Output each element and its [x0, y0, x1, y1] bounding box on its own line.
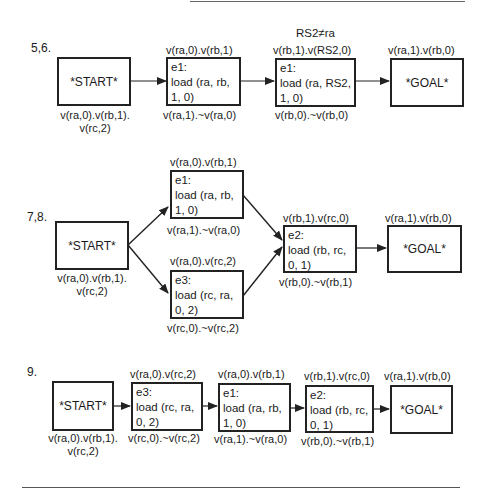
step-postcondition: v(rb,0).~v(rb,0)	[275, 109, 348, 122]
goal-node: *GOAL*	[390, 385, 453, 434]
diagram-label: 9.	[27, 366, 37, 379]
step-precondition: v(ra,0).v(rc,2)	[170, 255, 236, 268]
start-postcondition: v(ra,0).v(rb,1). v(rc,2)	[50, 109, 140, 135]
start-node: *START*	[57, 57, 131, 106]
start-node: *START*	[52, 381, 114, 431]
start-label: *START*	[59, 399, 107, 413]
step-postcondition: v(ra,1).~v(ra,0)	[163, 109, 236, 122]
start-postcondition: v(ra,0).v(rb,1). v(rc,2)	[38, 432, 128, 458]
step-node-e2: e2: load (rb, rc, 0, 1)	[305, 385, 374, 433]
goal-node: *GOAL*	[390, 58, 464, 107]
goal-precondition: v(ra,1).v(rb,0)	[384, 370, 451, 383]
step-precondition: v(ra,0).v(rc,2)	[130, 368, 196, 381]
step-node-e2: e2: load (rb, rc, 0, 1)	[283, 225, 357, 273]
step-postcondition: v(ra,1).~v(ra,0)	[214, 433, 287, 446]
diagram-label: 5,6.	[31, 42, 51, 55]
goal-precondition: v(ra,1).v(rb,0)	[385, 212, 452, 225]
goal-precondition: v(ra,1).v(rb,0)	[388, 44, 455, 57]
step-postcondition: v(ra,1).~v(ra,0)	[167, 224, 240, 237]
step-postcondition: v(rc,0).~v(rc,2)	[167, 322, 239, 335]
step-precondition: v(rb,1).v(rc,0)	[283, 212, 349, 225]
step-precondition: v(rb,1).v(rc,0)	[304, 370, 370, 383]
goal-label: *GOAL*	[403, 242, 446, 256]
step-node-e3: e3: load (rc, ra, 0, 2)	[131, 382, 203, 431]
start-label: *START*	[70, 75, 118, 89]
goal-node: *GOAL*	[387, 225, 462, 273]
step-precondition: v(ra,0).v(rb,1)	[166, 44, 233, 57]
step-node-e1-rs2: e1: load (ra, RS2, 1, 0)	[275, 58, 356, 107]
step-postcondition: v(rc,0).~v(rc,2)	[128, 432, 200, 445]
step-postcondition: v(rb,0).~v(rb,1)	[301, 435, 374, 448]
step-precondition: v(ra,0).v(rb,1)	[218, 368, 285, 381]
constraint-label: RS2≠ra	[296, 27, 335, 40]
diagram-label: 7,8.	[27, 211, 47, 224]
start-node: *START*	[55, 221, 129, 270]
step-postcondition: v(rb,0).~v(rb,1)	[279, 276, 352, 289]
step-node-e1: e1: load (ra, rb, 1, 0)	[218, 383, 291, 432]
step-node-e1: e1: load (ra, rb, 1, 0)	[170, 170, 244, 219]
step-precondition: v(ra,0).v(rb,1)	[170, 156, 237, 169]
step-precondition: v(rb,1).v(RS2,0)	[273, 44, 351, 57]
start-postcondition: v(ra,0).v(rb,1). v(rc,2)	[47, 272, 137, 298]
start-label: *START*	[68, 239, 116, 253]
step-node-e3: e3: load (rc, ra, 0, 2)	[170, 270, 244, 319]
step-node-e1: e1: load (ra, rb, 1, 0)	[166, 57, 241, 106]
goal-label: *GOAL*	[400, 403, 443, 417]
goal-label: *GOAL*	[406, 76, 449, 90]
